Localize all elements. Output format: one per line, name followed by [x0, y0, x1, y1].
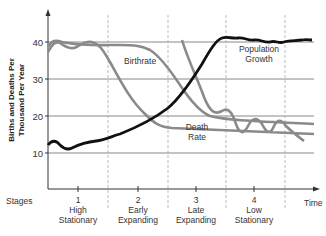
svg-text:4: 4 — [252, 195, 257, 205]
svg-text:Low: Low — [246, 205, 262, 215]
axes — [48, 12, 316, 189]
svg-text:3: 3 — [194, 195, 199, 205]
x-axis-arrow-icon — [313, 187, 320, 192]
stages-label: Stages — [6, 196, 32, 206]
svg-text:1: 1 — [76, 195, 81, 205]
stage-4-label: 4 Low Stationary — [235, 195, 274, 225]
birthrate-label: Birthrate — [124, 56, 156, 66]
x-axis-label: Time — [304, 198, 323, 208]
svg-text:Stationary: Stationary — [59, 215, 98, 225]
svg-text:Early: Early — [128, 205, 148, 215]
svg-text:Expanding: Expanding — [118, 215, 158, 225]
chart-svg: 40 30 20 10 Births and Deaths Per Thousa… — [0, 0, 326, 236]
y-tick-10: 10 — [32, 148, 43, 159]
svg-text:2: 2 — [136, 195, 141, 205]
svg-text:Thousand Per Year: Thousand Per Year — [17, 64, 26, 136]
population-growth-label-line1: Population — [239, 44, 279, 54]
svg-text:Late: Late — [188, 205, 205, 215]
gridlines — [48, 42, 314, 153]
y-tick-30: 30 — [32, 74, 43, 85]
y-tick-40: 40 — [32, 37, 43, 48]
svg-text:Expanding: Expanding — [176, 215, 216, 225]
y-tick-20: 20 — [32, 111, 43, 122]
y-axis-arrow-icon — [46, 9, 51, 16]
svg-text:Births and Deaths Per: Births and Deaths Per — [7, 58, 16, 142]
svg-text:High: High — [69, 205, 87, 215]
y-axis-label: Births and Deaths Per Thousand Per Year — [7, 58, 26, 142]
demographic-transition-chart: 40 30 20 10 Births and Deaths Per Thousa… — [0, 0, 326, 236]
death-rate-label-line2: Rate — [188, 132, 206, 142]
stage-3-label: 3 Late Expanding — [176, 195, 216, 225]
population-growth-label-line2: Growth — [245, 54, 273, 64]
death-rate-label-line1: Death — [186, 122, 209, 132]
stage-1-label: 1 High Stationary — [59, 195, 98, 225]
death-rate-line — [48, 40, 314, 141]
stage-2-label: 2 Early Expanding — [118, 195, 158, 225]
svg-text:Stationary: Stationary — [235, 215, 274, 225]
